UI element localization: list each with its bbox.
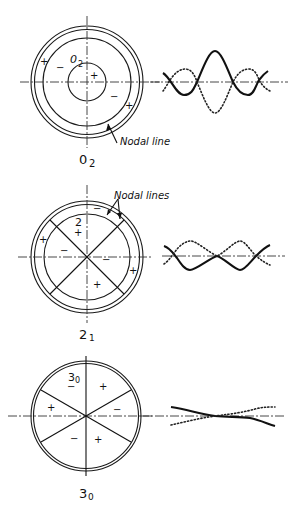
mode-0-2-disk [20, 16, 160, 148]
sign-plus: + [93, 279, 101, 290]
sign-minus: − [60, 245, 68, 256]
sign-minus: − [70, 433, 78, 444]
mode-label-sub: 0 [88, 492, 94, 502]
sign-minus: − [56, 62, 64, 73]
mode-2-1-profile [162, 241, 285, 270]
sign-plus: + [90, 70, 98, 81]
mode-label: 2 [79, 327, 87, 342]
mode-label-sub: 1 [89, 333, 95, 343]
mode-3-0-profile [140, 407, 285, 426]
mode-3-0-disk [8, 356, 152, 476]
mode-2-1-disk [18, 185, 152, 323]
solid-mode-curve [164, 245, 270, 270]
nodal-line-callout: Nodal line [120, 136, 170, 147]
sign-plus: + [74, 227, 82, 238]
sign-plus: + [47, 402, 55, 413]
sign-plus: + [129, 265, 137, 276]
sign-plus: + [125, 100, 133, 111]
vibration-modes-diagram: + − + − + 0 2 Nodal line 0 2 [0, 0, 302, 509]
mode-0-2-profile [150, 51, 288, 113]
mode-2-1-group: 2 − + + − − + + Nodal lines 2 1 [18, 185, 285, 343]
sign-minus: − [113, 404, 121, 415]
solid-mode-curve [163, 51, 268, 95]
sign-plus: + [94, 434, 102, 445]
mode-label: 0 [79, 152, 87, 167]
nodal-lines-callout: Nodal lines [114, 190, 169, 201]
sign-plus: + [99, 381, 107, 392]
mode-label-sub: 2 [89, 158, 95, 169]
inner-mode-label: 0 [70, 53, 77, 66]
mode-label: 3 [79, 486, 87, 501]
solid-mode-curve [171, 407, 275, 426]
mode-3-0-group: 3 0 − + + − − + 3 0 [8, 356, 285, 502]
inner-mode-label-sub: 0 [75, 376, 80, 385]
sign-minus: − [93, 203, 101, 214]
sign-minus: − [67, 381, 75, 392]
inner-mode-label-sub: 2 [78, 60, 83, 69]
sign-minus: − [110, 91, 118, 102]
sign-plus: + [40, 56, 48, 67]
sign-minus: − [102, 254, 110, 265]
mode-0-2-group: + − + − + 0 2 Nodal line 0 2 [20, 16, 288, 169]
sign-plus: + [39, 234, 47, 245]
